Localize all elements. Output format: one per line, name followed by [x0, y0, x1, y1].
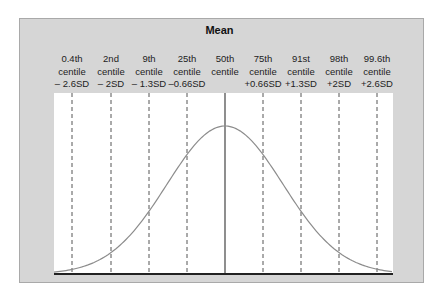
- plot-area: [54, 93, 393, 275]
- label-sd: –0.66SD: [157, 78, 217, 91]
- centile-labels: 0.4th centile – 2.6SD 2nd centile – 2SD …: [0, 53, 439, 91]
- mean-title: Mean: [0, 24, 439, 36]
- label-99-6th-centile: 99.6th centile +2.6SD: [347, 53, 407, 91]
- label-sd: +2.6SD: [347, 78, 407, 91]
- label-centile: 99.6th: [347, 53, 407, 66]
- bell-curve: [54, 126, 392, 272]
- bell-curve-chart: [54, 93, 393, 275]
- label-word: centile: [347, 66, 407, 79]
